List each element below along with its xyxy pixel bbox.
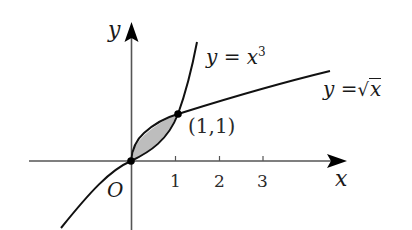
radical-icon: √ (357, 79, 368, 100)
shaded-region (131, 114, 176, 161)
sqrt-label-lhs: y = (323, 77, 357, 101)
y-axis-label: y (108, 19, 120, 41)
intersection-point (174, 110, 182, 118)
x-tick-label-2: 2 (214, 173, 225, 190)
intersection-label: (1,1) (188, 116, 235, 136)
origin-label: O (107, 180, 123, 200)
origin-point (127, 157, 135, 165)
x-tick-label-1: 1 (170, 173, 181, 190)
sqrt-label-radicand: x (369, 78, 381, 100)
cubic-label-lhs: y = x (206, 45, 258, 69)
x-tick-label-3: 3 (257, 173, 268, 190)
cubic-curve (61, 42, 197, 228)
sqrt-curve-label: y =√x (323, 78, 381, 100)
cubic-curve-label: y = x3 (206, 46, 266, 67)
x-axis-label: x (335, 168, 347, 190)
cubic-label-exponent: 3 (258, 45, 266, 59)
